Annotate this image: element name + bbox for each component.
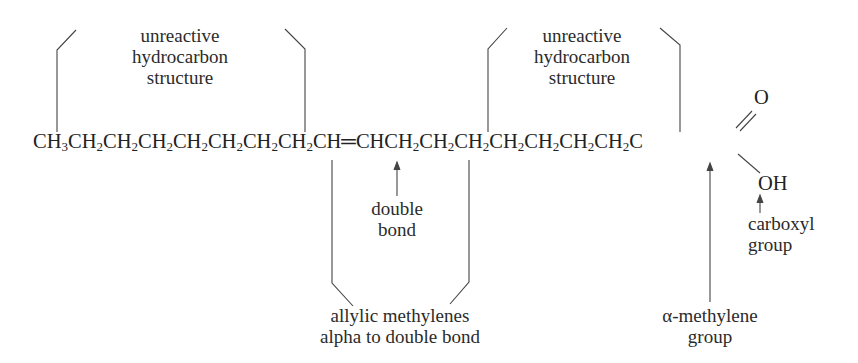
label-allylic-methylenes: allylic methylenes alpha to double bond: [300, 305, 500, 347]
label-double-bond: double bond: [362, 198, 432, 240]
label-line: group: [748, 234, 814, 255]
label-carboxyl-group: carboxyl group: [748, 213, 814, 255]
label-line: group: [650, 326, 770, 347]
bracket-allylic-b: [450, 160, 469, 304]
carbonyl-oxygen: O: [754, 86, 769, 109]
label-line: allylic methylenes: [300, 305, 500, 326]
label-line: hydrocarbon: [120, 46, 240, 67]
fatty-acid-chain: CH3CH2CH2CH2CH2CH2CH2CH2CH═CHCH2CH2CH2CH…: [33, 130, 643, 153]
bracket-unreactive-right-b: [660, 28, 680, 132]
label-unreactive-left: unreactive hydrocarbon structure: [120, 25, 240, 88]
label-line: hydrocarbon: [520, 46, 644, 67]
label-line: double: [362, 198, 432, 219]
label-line: unreactive: [120, 25, 240, 46]
label-unreactive-right: unreactive hydrocarbon structure: [520, 25, 644, 88]
bracket-unreactive-right-a: [488, 28, 507, 132]
bracket-unreactive-left-a: [57, 30, 76, 132]
label-line: structure: [520, 67, 644, 88]
bracket-allylic-a: [332, 160, 353, 306]
label-line: α-methylene: [650, 305, 770, 326]
label-line: structure: [120, 67, 240, 88]
label-line: bond: [362, 219, 432, 240]
label-alpha-methylene: α-methylene group: [650, 305, 770, 347]
label-line: alpha to double bond: [300, 326, 500, 347]
label-line: carboxyl: [748, 213, 814, 234]
hydroxyl-group: OH: [758, 172, 788, 195]
bracket-unreactive-left-b: [285, 29, 305, 132]
label-line: unreactive: [520, 25, 644, 46]
